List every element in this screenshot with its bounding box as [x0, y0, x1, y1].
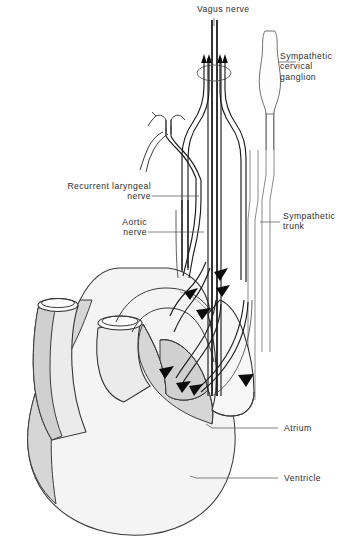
label-sympathetic-trunk-line1: Sympathetic: [283, 211, 335, 221]
label-sympathetic-cervical-ganglion: Sympathetic cervical ganglion: [280, 51, 332, 82]
label-sympathetic-trunk: Sympathetic trunk: [283, 211, 335, 232]
label-aortic-nerve-line1: Aortic: [10, 217, 147, 227]
label-recurrent-laryngeal-nerve-line1: Recurrent laryngeal: [10, 181, 151, 191]
label-recurrent-laryngeal-nerve-line2: nerve: [10, 191, 151, 201]
label-recurrent-laryngeal-nerve: Recurrent laryngeal nerve: [10, 181, 151, 202]
label-sympathetic-cervical-ganglion-line1: Sympathetic: [280, 51, 332, 61]
label-sympathetic-cervical-ganglion-line3: ganglion: [280, 72, 332, 82]
label-atrium: Atrium: [284, 423, 312, 433]
label-ventricle: Ventricle: [284, 473, 321, 483]
label-aortic-nerve: Aortic nerve: [10, 217, 147, 238]
label-sympathetic-trunk-line2: trunk: [283, 221, 335, 231]
sympathetic-trunk-lines: [248, 96, 274, 400]
sympathetic-cervical-ganglion-shape: [259, 31, 280, 150]
label-vagus-nerve: Vagus nerve: [197, 4, 250, 14]
aortic-nerve-fibres: [176, 200, 188, 278]
label-sympathetic-cervical-ganglion-line2: cervical: [280, 61, 332, 71]
label-aortic-nerve-line2: nerve: [10, 227, 147, 237]
anatomical-figure: Vagus nerve Sympathetic cervical ganglio…: [0, 0, 353, 546]
vagus-node-ellipse: [197, 65, 231, 81]
